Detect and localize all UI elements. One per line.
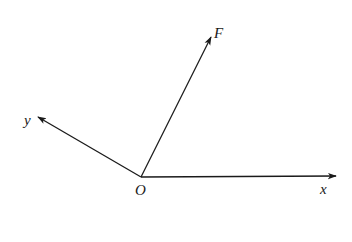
x-axis-label: x [319, 181, 327, 197]
y-axis-label: y [22, 112, 31, 128]
origin-label: O [135, 182, 146, 198]
x-axis [141, 176, 336, 177]
force-label-f: F [213, 25, 224, 41]
diagram-canvas: O x y F [0, 0, 352, 242]
y-axis [38, 117, 141, 177]
force-vector-f [141, 37, 211, 177]
